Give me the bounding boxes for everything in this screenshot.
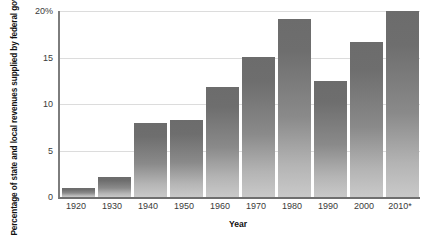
x-axis-tick-label: 1950 [166,201,202,217]
x-axis-tick-label: 1940 [130,201,166,217]
bar-slot [96,11,132,197]
y-axis-title: Percentage of state and local revenues s… [0,0,30,200]
x-axis-tick-label: 1970 [238,201,274,217]
plot-area [58,11,420,199]
x-axis-tick-label: 1920 [58,201,94,217]
bar-slot [240,11,276,197]
bar[interactable] [314,81,347,197]
y-axis-tick-label: 10 [43,99,53,109]
bar[interactable] [98,177,131,197]
bar[interactable] [170,120,203,197]
x-axis-tick-label: 1930 [94,201,130,217]
x-axis-title: Year [58,219,418,229]
y-axis-tick-label: 0 [48,192,53,202]
x-axis-tick-label: 2000 [346,201,382,217]
y-axis-tick-labels: 05101520% [28,0,56,205]
y-axis-tick-label: 20% [35,6,53,16]
x-axis-tick-label: 2010* [382,201,418,217]
bar[interactable] [62,188,95,197]
y-axis-tick-label: 15 [43,53,53,63]
x-axis-tick-label: 1960 [202,201,238,217]
bar[interactable] [278,19,311,197]
y-axis-tick-label: 5 [48,146,53,156]
x-axis-tick-labels: 1920193019401950196019701980199020002010… [58,201,418,217]
bar[interactable] [206,87,239,197]
x-axis-tick-label: 1990 [310,201,346,217]
bar-slot [276,11,312,197]
bar-series [60,11,420,197]
bar[interactable] [134,123,167,197]
y-axis-title-text: Percentage of state and local revenues s… [10,0,21,235]
bar-slot [312,11,348,197]
bar-slot [168,11,204,197]
bar-slot [132,11,168,197]
bar-slot [60,11,96,197]
bar-chart: Percentage of state and local revenues s… [0,0,426,235]
bar-slot [348,11,384,197]
bar-slot [204,11,240,197]
bar[interactable] [350,42,383,197]
bar[interactable] [386,11,419,197]
bar[interactable] [242,57,275,197]
x-axis-tick-label: 1980 [274,201,310,217]
bar-slot [384,11,420,197]
